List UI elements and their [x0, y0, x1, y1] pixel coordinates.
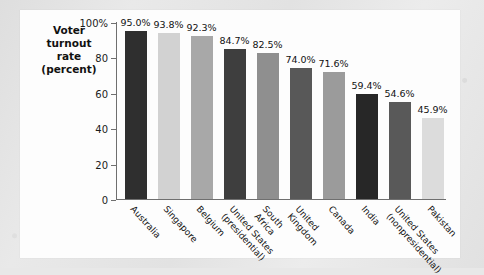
bar-group: 92.3%Belgium [191, 36, 213, 199]
y-tick-mark [111, 165, 116, 166]
bar [290, 68, 312, 199]
bar-value-label: 59.4% [351, 80, 381, 91]
bar [191, 36, 213, 199]
x-axis-category-label: India [359, 204, 382, 227]
y-tick-mark [111, 129, 116, 130]
y-tick-label: 80 [95, 53, 108, 64]
y-tick-label: 100% [79, 18, 108, 29]
bar-value-label: 74.0% [285, 54, 315, 65]
x-axis-line [116, 199, 446, 200]
x-axis-category-label: Pakistan [425, 204, 458, 239]
y-tick-label: 20 [95, 159, 108, 170]
bar [158, 33, 180, 199]
y-axis-line [116, 22, 117, 200]
x-axis-category-label-line: Australia [128, 204, 162, 241]
bar-group: 95.0%Australia [125, 31, 147, 199]
bar-group: 74.0%UnitedKingdom [290, 68, 312, 199]
bar-value-label: 92.3% [186, 22, 216, 33]
bar-group: 84.7%United States(presidential) [224, 49, 246, 199]
bar [125, 31, 147, 199]
bar [224, 49, 246, 199]
x-axis-category-label: Australia [128, 204, 162, 241]
y-axis-title-line-2: turnout [30, 37, 108, 50]
y-tick-label: 40 [95, 124, 108, 135]
x-axis-category-label: UnitedKingdom [285, 204, 327, 248]
bar [257, 53, 279, 199]
bar-group: 54.6%United States(nonpresidential) [389, 102, 411, 199]
bar-value-label: 45.9% [417, 104, 447, 115]
bar-value-label: 71.6% [318, 58, 348, 69]
bar-value-label: 82.5% [252, 39, 282, 50]
bar [389, 102, 411, 199]
bar-value-label: 84.7% [219, 35, 249, 46]
bar [422, 118, 444, 199]
bar-value-label: 95.0% [120, 17, 150, 28]
bar-group: 93.8%Singapore [158, 33, 180, 199]
bar-group: 59.4%India [356, 94, 378, 199]
bar-group: 82.5%SouthAfrica [257, 53, 279, 199]
x-axis-category-label-line: Pakistan [425, 204, 458, 239]
y-tick-label: 60 [95, 88, 108, 99]
plot-area: 020406080100% 95.0%Australia93.8%Singapo… [116, 22, 446, 200]
y-tick-mark [111, 200, 116, 201]
bar-group: 45.9%Pakistan [422, 118, 444, 199]
x-axis-category-label-line: Canada [326, 204, 357, 236]
y-axis-title-line-4: (percent) [30, 63, 108, 76]
bar-group: 71.6%Canada [323, 72, 345, 199]
y-tick-label: 0 [102, 195, 108, 206]
y-tick-mark [111, 23, 116, 24]
x-axis-category-label: Canada [326, 204, 357, 236]
y-tick-mark [111, 58, 116, 59]
x-axis-category-label-line: India [359, 204, 382, 227]
bar [356, 94, 378, 199]
chart-panel: Voter turnout rate (percent) 02040608010… [20, 10, 460, 258]
bar-value-label: 54.6% [384, 88, 414, 99]
bar [323, 72, 345, 199]
y-tick-mark [111, 94, 116, 95]
y-axis-title: Voter turnout rate (percent) [30, 24, 108, 76]
bar-value-label: 93.8% [153, 19, 183, 30]
